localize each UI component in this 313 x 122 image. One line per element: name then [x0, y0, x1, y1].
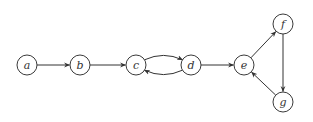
edge-c-to-d — [145, 55, 183, 59]
node-g-label: g — [279, 96, 286, 109]
edge-g-to-e — [252, 72, 276, 95]
nodes-layer: abcdefg — [17, 14, 293, 112]
node-a-label: a — [24, 59, 31, 72]
graph-canvas: abcdefg — [0, 0, 313, 122]
node-e-label: e — [241, 59, 248, 72]
node-c-label: c — [133, 59, 139, 72]
edge-d-to-c — [145, 70, 183, 74]
node-d: d — [181, 55, 201, 75]
node-g: g — [273, 92, 293, 112]
edge-e-to-f — [251, 32, 276, 58]
node-c: c — [126, 55, 146, 75]
node-e: e — [234, 55, 254, 75]
node-f: f — [273, 14, 293, 34]
node-a: a — [17, 55, 37, 75]
node-b-label: b — [76, 59, 83, 72]
node-b: b — [70, 55, 90, 75]
node-d-label: d — [187, 59, 194, 72]
